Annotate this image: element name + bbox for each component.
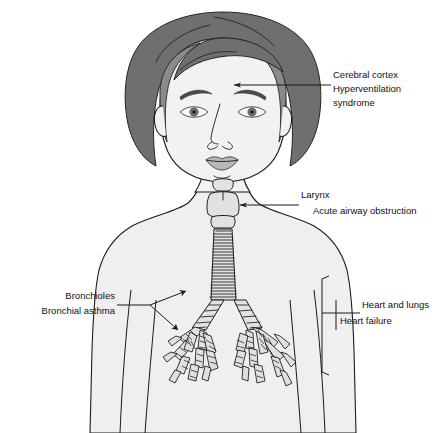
label-larynx-condition: Acute airway obstruction <box>313 205 417 216</box>
label-cerebral-cortex-condition-2: syndrome <box>333 97 375 108</box>
label-larynx: Larynx Acute airway obstruction <box>301 189 417 216</box>
label-cerebral-cortex-condition-1: Hyperventilation <box>333 83 401 94</box>
bronch-right-twig-4 <box>242 366 249 381</box>
head <box>125 12 321 182</box>
label-bronchioles-anatomy: Bronchioles <box>65 290 115 301</box>
hyoid-bone <box>213 179 234 191</box>
label-heart-lungs-anatomy: Heart and lungs <box>362 299 429 310</box>
eye-right-pupil <box>250 110 254 114</box>
label-larynx-anatomy: Larynx <box>301 189 330 200</box>
label-cerebral-cortex-anatomy: Cerebral cortex <box>333 69 398 80</box>
anatomy-diagram: Cerebral cortex Hyperventilation syndrom… <box>0 0 446 433</box>
label-cerebral-cortex: Cerebral cortex Hyperventilation syndrom… <box>333 69 401 108</box>
label-bronchioles-condition: Bronchial asthma <box>42 305 116 316</box>
cricoid-cartilage <box>211 216 235 229</box>
label-heart-lungs-condition: Heart failure <box>340 315 392 326</box>
eye-left-pupil <box>192 110 196 114</box>
